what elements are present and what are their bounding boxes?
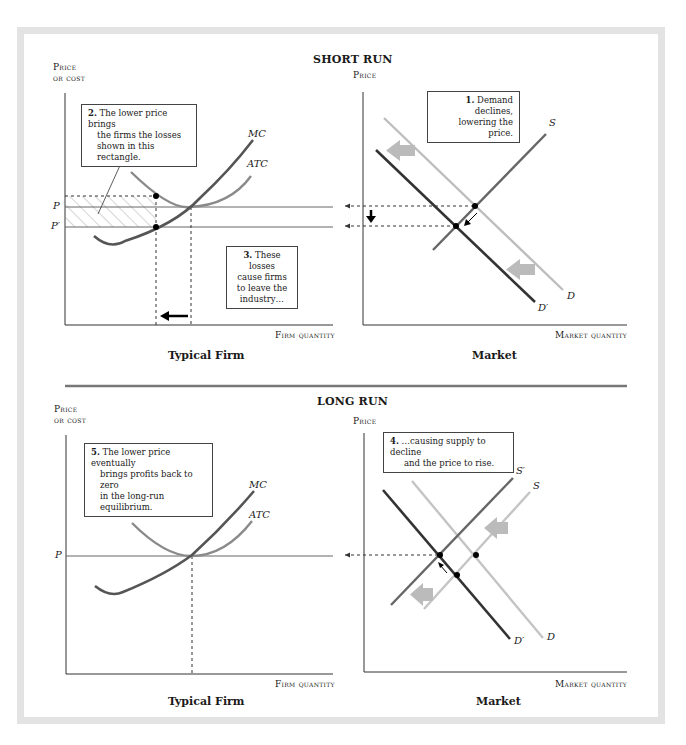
lr-d-curve xyxy=(412,481,543,638)
callout-4: 4. …causing supply to decline and the pr… xyxy=(383,432,514,473)
callout-4-line2: and the price to rise. xyxy=(390,458,507,469)
sr-p-prime-label: P′ xyxy=(51,220,60,231)
callout-5-line3: in the long-run equilibrium. xyxy=(91,491,206,513)
lr-market-x-axis-label: Market quantity xyxy=(555,679,627,690)
callout-5-number: 5. xyxy=(91,447,100,457)
lr-s-prime-curve xyxy=(391,478,513,605)
callout-3-line4: industry… xyxy=(233,294,291,305)
exit-arrow-head xyxy=(160,311,169,321)
sr-market-new-eq-dot xyxy=(453,223,459,229)
callout-1-line1: Demand declines, xyxy=(475,95,513,116)
lr-firm-x-axis-label: Firm quantity xyxy=(275,679,335,690)
callout-3: 3. These losses cause firms to leave the… xyxy=(226,246,298,309)
lr-p-label: P xyxy=(55,549,62,560)
callout-3-line2: cause firms xyxy=(233,272,291,283)
sr-firm-mc-dot xyxy=(153,224,159,230)
lr-s-curve xyxy=(424,492,530,609)
sr-s-curve xyxy=(433,134,546,250)
lr-atc-curve xyxy=(132,521,252,556)
sr-d-label: D xyxy=(567,290,575,301)
lr-market-new-eq-dot xyxy=(437,552,443,558)
callout-3-line1: These losses xyxy=(249,250,281,271)
sr-d-prime-label: D′ xyxy=(538,302,548,313)
lr-market-sr-eq-dot xyxy=(454,572,460,578)
sr-atc-label: ATC xyxy=(247,158,268,169)
long-run-title: LONG RUN xyxy=(317,395,388,408)
callout-4-number: 4. xyxy=(390,436,399,446)
lr-s-label: S xyxy=(533,480,540,491)
lr-mc-label: MC xyxy=(249,479,267,490)
callout-2-number: 2. xyxy=(88,108,97,118)
callout-1-line2: lowering the price. xyxy=(434,117,513,139)
callout-4-line1: …causing supply to decline xyxy=(390,436,486,457)
lr-firm-y-axis-label-line1: Price xyxy=(54,404,86,415)
sr-market-old-eq-dot xyxy=(472,203,478,209)
callout-1-number: 1. xyxy=(466,95,475,105)
callout-2-line2: the firms the losses xyxy=(88,130,190,141)
sr-s-label: S xyxy=(549,117,556,128)
lr-firm-panel-title: Typical Firm xyxy=(168,695,245,708)
lr-firm-y-axis-label: Price or cost xyxy=(54,404,86,426)
lr-firm-y-axis-label-line2: or cost xyxy=(54,415,86,426)
callout-5-line2: brings profits back to zero xyxy=(91,469,206,491)
lr-market-orig-eq-dot xyxy=(473,552,479,558)
callout-2-line3: shown in this rectangle. xyxy=(88,141,190,163)
lr-atc-label: ATC xyxy=(249,509,270,520)
sr-firm-atc-dot xyxy=(153,193,159,199)
sr-p-label: P xyxy=(53,200,60,211)
lr-d-prime-curve xyxy=(383,490,510,639)
callout-3-number: 3. xyxy=(243,250,252,260)
callout-2-line1: The lower price brings xyxy=(88,108,167,129)
lr-s-prime-label: S′ xyxy=(516,465,525,476)
lr-market-y-axis-label: Price xyxy=(353,416,376,427)
loss-rectangle xyxy=(66,196,156,227)
lr-d-prime-label: D′ xyxy=(514,635,524,646)
callout-1: 1. Demand declines, lowering the price. xyxy=(427,91,520,143)
lr-d-label: D xyxy=(547,631,555,642)
callout-5: 5. The lower price eventually brings pro… xyxy=(84,443,213,517)
callout-3-line3: to leave the xyxy=(233,283,291,294)
callout-2: 2. The lower price brings the firms the … xyxy=(81,104,197,167)
sr-mc-label: MC xyxy=(248,128,266,139)
callout-5-line1: The lower price eventually xyxy=(91,447,170,468)
lr-market-panel-title: Market xyxy=(476,695,521,708)
